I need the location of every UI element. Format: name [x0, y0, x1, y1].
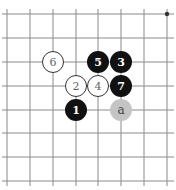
- stone-label: 3: [117, 57, 125, 68]
- marker-point: a: [110, 99, 132, 121]
- black-stone: 7: [110, 75, 132, 97]
- stone-label: 6: [50, 57, 57, 68]
- stone-label: 5: [94, 57, 102, 68]
- white-stone: 2: [65, 75, 87, 97]
- stone-label: 1: [72, 105, 80, 116]
- black-stone: 5: [87, 51, 109, 73]
- stone-label: a: [117, 104, 124, 116]
- star-point-icon: [165, 12, 169, 16]
- stone-label: 2: [73, 81, 80, 92]
- stone-label: 7: [117, 81, 125, 92]
- board-grid: [0, 0, 176, 190]
- stone-label: 4: [95, 81, 102, 92]
- black-stone: 1: [65, 99, 87, 121]
- white-stone: 4: [87, 75, 109, 97]
- black-stone: 3: [110, 51, 132, 73]
- go-board-diagram: 1234567a: [0, 0, 176, 190]
- white-stone: 6: [42, 51, 64, 73]
